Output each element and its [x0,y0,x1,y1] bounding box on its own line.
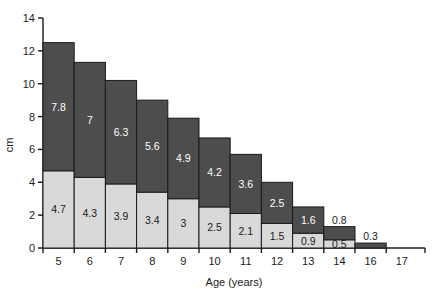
bar-value-label-upper: 5.6 [145,140,160,152]
y-axis-tick-label: 2 [29,209,35,221]
x-axis-tick-label: 17 [396,255,408,267]
x-axis-tick-label: 9 [180,255,186,267]
y-axis-tick-label: 6 [29,143,35,155]
bar-value-label-upper: 0.8 [332,214,347,226]
bar-value-label-lower: 1.5 [270,230,285,242]
bar-value-label-upper: 1.6 [301,214,316,226]
y-axis-title: cm [3,138,15,153]
x-axis-tick-label: 7 [118,255,124,267]
x-axis-tick-label: 14 [333,255,345,267]
bar-value-label-lower: 4.3 [82,207,97,219]
x-axis-tick-label: 8 [149,255,155,267]
x-axis-tick-label: 11 [240,255,251,267]
bar-value-label-lower: 2.5 [207,221,222,233]
bar-value-label-lower: 3 [180,217,186,229]
y-axis-tick-label: 12 [23,45,35,57]
x-axis-tick-label: 13 [302,255,314,267]
x-axis-tick-label: 12 [271,255,283,267]
y-axis-tick-label: 4 [29,176,35,188]
bar-value-label-lower: 3.4 [145,214,160,226]
chart-canvas: 02468101214cm4.77.854.3763.96.373.45.683… [0,0,446,295]
x-axis-tick-label: 16 [364,255,376,267]
y-axis-tick-label: 0 [29,242,35,254]
y-axis-tick-label: 10 [23,78,35,90]
bar-value-label-upper: 2.5 [270,197,285,209]
bar-value-label-lower: 0.9 [301,235,316,247]
bar-value-label-upper: 4.2 [207,166,222,178]
bar-value-label-lower: 4.7 [51,203,66,215]
x-axis-tick-label: 5 [56,255,62,267]
y-axis-tick-label: 14 [23,12,35,24]
bar-value-label-upper: 7.8 [51,101,66,113]
bar-value-label-lower: 0.5 [332,238,347,250]
x-axis-title: Age (years) [206,276,263,288]
y-axis-tick-label: 8 [29,111,35,123]
bar-value-label-upper: 6.3 [114,126,129,138]
bar-value-label-upper: 4.9 [176,152,191,164]
bar-value-label-lower: 3.9 [114,210,129,222]
bar-value-label-lower: 2.1 [238,225,253,237]
bar-value-label-upper: 0.3 [363,230,378,242]
bar-segment-upper [355,243,386,248]
x-axis-tick-label: 10 [208,255,220,267]
bar-value-label-upper: 3.6 [238,178,253,190]
stacked-bar-chart: 02468101214cm4.77.854.3763.96.373.45.683… [0,0,446,295]
bar-value-label-upper: 7 [87,114,93,126]
x-axis-tick-label: 6 [87,255,93,267]
